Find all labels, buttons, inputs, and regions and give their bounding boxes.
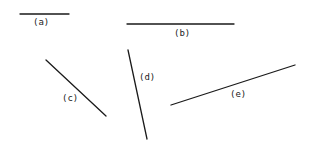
line-c [46, 60, 106, 116]
line-e [171, 65, 295, 105]
label-c: (c) [62, 93, 78, 103]
label-b: (b) [174, 28, 190, 38]
segment-a: (a) [20, 14, 69, 27]
segment-b: (b) [127, 24, 234, 38]
label-e: (e) [230, 89, 246, 99]
segment-c: (c) [46, 60, 106, 116]
line-segments-diagram: (a) (b) (c) (d) (e) [0, 0, 311, 141]
segment-e: (e) [171, 65, 295, 105]
segment-d: (d) [128, 50, 155, 139]
label-a: (a) [33, 17, 49, 27]
label-d: (d) [139, 72, 155, 82]
line-d [128, 50, 147, 139]
